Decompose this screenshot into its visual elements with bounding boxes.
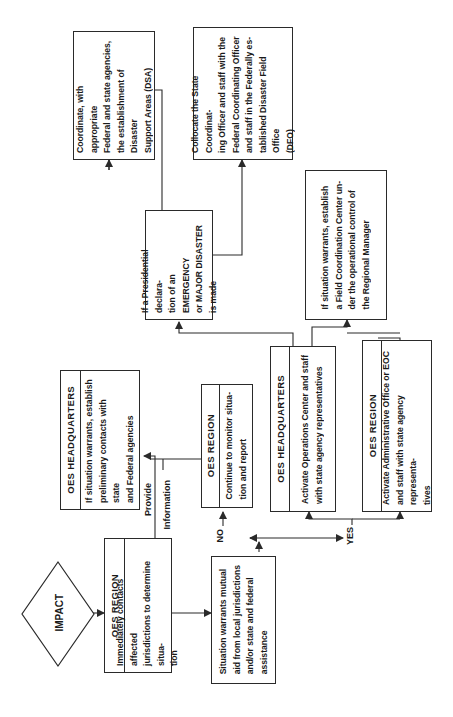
box-body: If situation warrants, establish prelimi…: [81, 371, 139, 509]
box-body: Immediately contacts affected jurisdicti…: [125, 539, 171, 672]
box-header: OES HEADQUARTERS: [61, 371, 81, 509]
oes-hq-preliminary-box: OES HEADQUARTERS If situation warrants, …: [60, 370, 140, 510]
box-body: If a Presidential declara- tion of an EM…: [146, 211, 212, 319]
collocate-dfo-box: Collocate the State Coordinat- ing Offic…: [193, 27, 293, 160]
box-body: Situation warrants mutual aid from local…: [212, 557, 275, 683]
presidential-declaration-box: If a Presidential declara- tion of an EM…: [145, 210, 213, 320]
box-header: OES HEADQUARTERS: [271, 347, 290, 511]
oes-region-initial-box: OES REGION Immediately contacts affected…: [104, 538, 172, 673]
box-header: OES REGION: [202, 385, 220, 507]
coordinate-dsa-box: Coordinate, with appropriate Federal and…: [73, 31, 155, 160]
box-body: Activate Operations Center and staff wit…: [290, 347, 335, 511]
situation-warrants-box: Situation warrants mutual aid from local…: [211, 556, 276, 684]
box-body: Continue to monitor situa- tion and repo…: [220, 385, 252, 507]
impact-label: IMPACT: [54, 594, 65, 632]
no-label: NO: [215, 529, 225, 543]
information-label: Information: [162, 480, 172, 530]
yes-label: YES: [345, 527, 355, 545]
oes-region-monitor-box: OES REGION Continue to monitor situa- ti…: [201, 384, 253, 508]
box-body: Activate Administrative Office or EOC an…: [382, 341, 431, 511]
oes-hq-activate-box: OES HEADQUARTERS Activate Operations Cen…: [270, 346, 336, 512]
box-body: Collocate the State Coordinat- ing Offic…: [194, 28, 292, 159]
oes-region-activate-box: OES REGION Activate Administrative Offic…: [362, 340, 432, 512]
provide-label: Provide: [143, 483, 153, 516]
box-body: If situation warrants, establish a Field…: [306, 171, 386, 319]
field-coordination-box: If situation warrants, establish a Field…: [305, 170, 387, 320]
box-body: Coordinate, with appropriate Federal and…: [74, 32, 154, 159]
